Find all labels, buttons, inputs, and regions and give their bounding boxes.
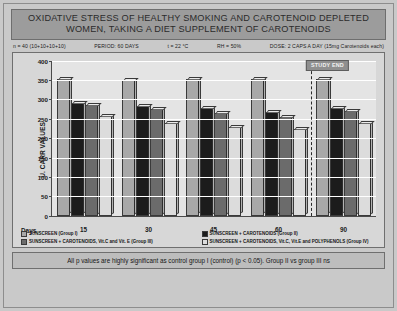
- param-period: PERIOD: 60 DAYS: [94, 43, 138, 49]
- y-tick-label: 400: [38, 57, 48, 64]
- legend-swatch-icon: [21, 239, 27, 245]
- chart-title-line-2: WOMEN, TAKING A DIET SUPPLEMENT OF CAROT…: [16, 24, 381, 35]
- legend-swatch-icon: [202, 239, 208, 245]
- y-tick-label: 150: [38, 154, 48, 161]
- chart-poster: OXIDATIVE STRESS OF HEALTHY SMOKING AND …: [0, 0, 397, 311]
- gridline: [52, 80, 376, 81]
- y-tick-label: 250: [38, 115, 48, 122]
- legend-item[interactable]: SUNSCREEN (Group I): [21, 231, 196, 237]
- y-tick-mark: [49, 196, 52, 197]
- bar-series-2: [136, 106, 149, 216]
- bar-series-2: [330, 108, 343, 215]
- y-tick-mark: [49, 177, 52, 178]
- param-humidity: RH = 50%: [217, 43, 241, 49]
- bar-series-2: [71, 103, 84, 215]
- chart-title-line-1: OXIDATIVE STRESS OF HEALTHY SMOKING AND …: [16, 13, 381, 24]
- footer-note: All p values are highly significant as c…: [12, 252, 385, 269]
- bar-series-4: [228, 127, 241, 215]
- legend-label: SUNSCREEN (Group I): [29, 231, 78, 236]
- bar-series-4: [293, 129, 306, 216]
- y-tick-label: 50: [41, 193, 48, 200]
- gridline: [52, 196, 376, 197]
- legend-swatch-icon: [21, 231, 27, 237]
- chart-legend: SUNSCREEN (Group I)SUNSCREEN + CAROTENOI…: [21, 231, 376, 245]
- bar-series-3: [279, 117, 292, 216]
- chart-title-banner: OXIDATIVE STRESS OF HEALTHY SMOKING AND …: [11, 9, 386, 40]
- bar-series-3: [344, 111, 357, 216]
- param-dose: DOSE: 2 CAPS A DAY (15mg Carotenoids eac…: [270, 43, 384, 49]
- gridline: [52, 119, 376, 120]
- legend-item[interactable]: SUNSCREEN + CAROTENOIDS, Vit.C and Vit. …: [21, 239, 196, 245]
- y-tick-label: 300: [38, 96, 48, 103]
- bar-series-4: [99, 116, 112, 216]
- gridline: [52, 99, 376, 100]
- plot-area-wrapper: 050100150200250300350400STUDY END: [51, 61, 376, 217]
- param-temperature: t = 22 °C: [167, 43, 188, 49]
- y-axis-title: U. CARR VALUES: [39, 122, 46, 178]
- legend-swatch-icon: [202, 231, 208, 237]
- y-tick-mark: [49, 61, 52, 62]
- y-tick-mark: [49, 80, 52, 81]
- legend-item[interactable]: SUNSCREEN + CAROTENOIDS, Vit.C, Vit.E an…: [202, 239, 377, 245]
- y-tick-mark: [49, 216, 52, 217]
- y-tick-label: 350: [38, 77, 48, 84]
- y-tick-mark: [49, 99, 52, 100]
- study-end-divider: [311, 61, 312, 216]
- bar-series-3: [150, 109, 163, 216]
- y-tick-mark: [49, 119, 52, 120]
- legend-item[interactable]: SUNSCREEN + CAROTENOIDS (Group II): [202, 231, 377, 237]
- study-end-label: STUDY END: [306, 60, 349, 71]
- bar-series-2: [200, 108, 213, 216]
- bar-series-3: [214, 113, 227, 216]
- y-tick-mark: [49, 158, 52, 159]
- legend-label: SUNSCREEN + CAROTENOIDS, Vit.C and Vit. …: [29, 239, 153, 244]
- bar-series-3: [85, 105, 98, 216]
- gridline: [52, 138, 376, 139]
- legend-label: SUNSCREEN + CAROTENOIDS, Vit.C, Vit.E an…: [210, 239, 369, 244]
- gridline: [52, 177, 376, 178]
- y-tick-label: 0: [45, 212, 48, 219]
- param-sample-size: n = 40 (10+10+10+10): [13, 43, 66, 49]
- legend-label: SUNSCREEN + CAROTENOIDS (Group II): [210, 231, 298, 236]
- y-tick-label: 100: [38, 173, 48, 180]
- chart-frame: U. CARR VALUES 050100150200250300350400S…: [12, 52, 385, 248]
- y-tick-mark: [49, 138, 52, 139]
- bar-series-4: [164, 123, 177, 216]
- plot-area: 050100150200250300350400STUDY END: [51, 61, 376, 217]
- gridline: [52, 158, 376, 159]
- bar-series-4: [358, 123, 371, 216]
- study-parameters: n = 40 (10+10+10+10) PERIOD: 60 DAYS t =…: [13, 43, 384, 49]
- bar-series-2: [265, 112, 278, 216]
- y-tick-label: 200: [38, 135, 48, 142]
